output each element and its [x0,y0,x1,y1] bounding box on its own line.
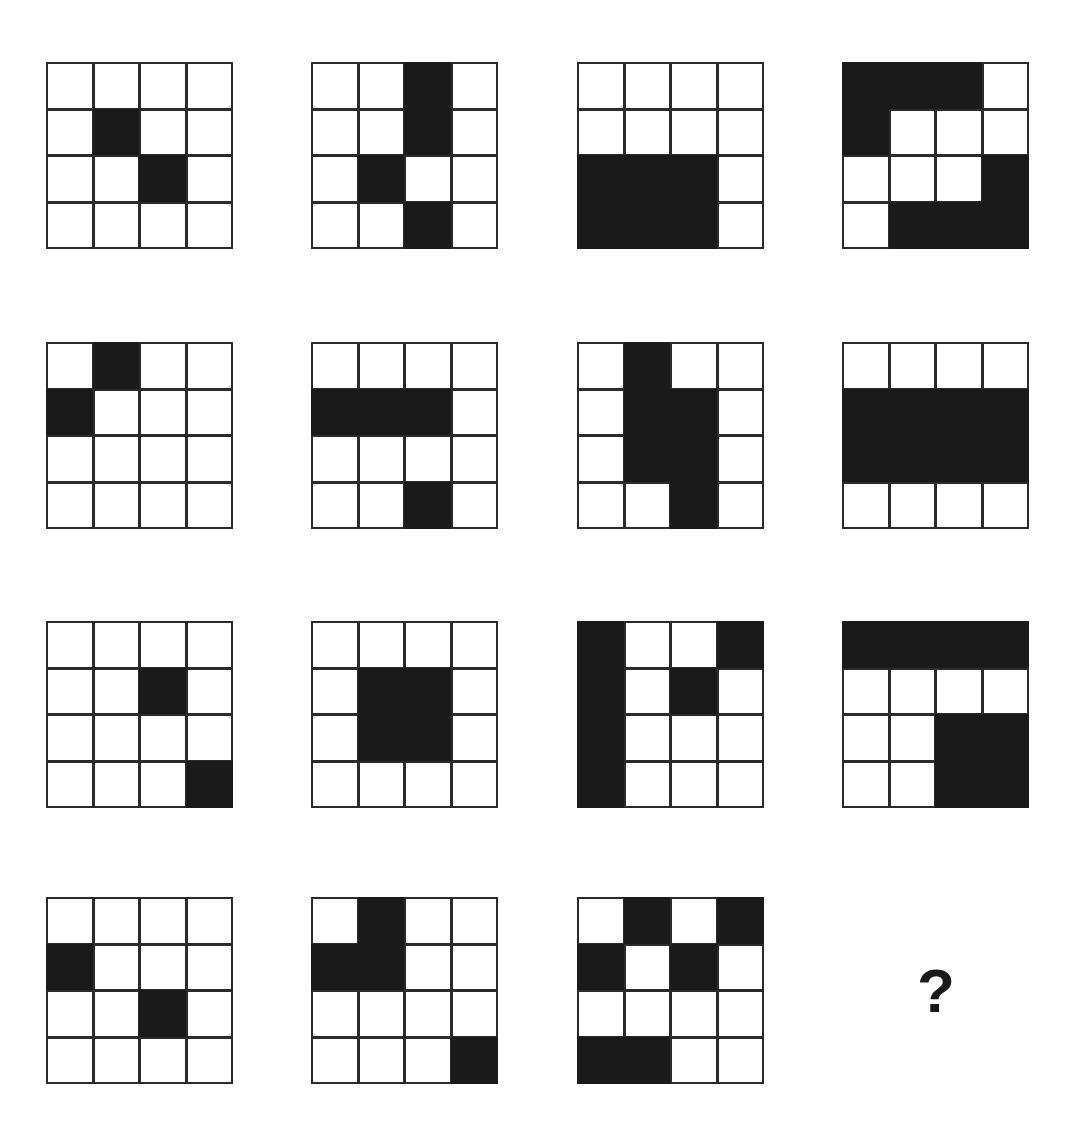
empty-cell [717,668,765,716]
empty-cell [186,342,234,390]
filled-cell [358,944,406,992]
empty-cell [670,761,718,809]
empty-cell [186,109,234,157]
empty-cell [982,62,1030,110]
empty-cell [311,1037,359,1085]
empty-cell [358,1037,406,1085]
empty-cell [670,990,718,1038]
empty-cell [93,62,141,110]
empty-cell [311,621,359,669]
empty-cell [717,761,765,809]
pattern-figure-1 [47,63,233,249]
empty-cell [139,714,187,762]
empty-cell [404,342,452,390]
pattern-figure-9 [47,622,233,808]
empty-cell [889,342,937,390]
empty-cell [717,109,765,157]
empty-cell [139,761,187,809]
empty-cell [93,897,141,945]
empty-cell [358,342,406,390]
answer-slot[interactable]: ? [843,898,1029,1084]
empty-cell [451,897,499,945]
empty-cell [311,155,359,203]
empty-cell [982,668,1030,716]
filled-cell [982,389,1030,437]
filled-cell [842,109,890,157]
empty-cell [451,714,499,762]
filled-cell [404,109,452,157]
filled-cell [842,435,890,483]
empty-cell [93,714,141,762]
filled-cell [186,761,234,809]
filled-cell [982,202,1030,250]
empty-cell [842,202,890,250]
filled-cell [577,668,625,716]
empty-cell [46,714,94,762]
empty-cell [46,482,94,530]
empty-cell [186,990,234,1038]
empty-cell [889,761,937,809]
empty-cell [451,668,499,716]
empty-cell [139,202,187,250]
empty-cell [624,990,672,1038]
empty-cell [624,109,672,157]
empty-cell [186,668,234,716]
empty-cell [577,990,625,1038]
empty-cell [670,621,718,669]
filled-cell [982,155,1030,203]
filled-cell [670,435,718,483]
filled-cell [624,389,672,437]
empty-cell [889,482,937,530]
empty-cell [577,897,625,945]
empty-cell [358,62,406,110]
filled-cell [451,1037,499,1085]
empty-cell [186,897,234,945]
filled-cell [404,202,452,250]
empty-cell [93,621,141,669]
empty-cell [670,897,718,945]
filled-cell [577,714,625,762]
empty-cell [624,761,672,809]
filled-cell [358,897,406,945]
empty-cell [311,482,359,530]
empty-cell [93,1037,141,1085]
empty-cell [624,621,672,669]
empty-cell [186,1037,234,1085]
empty-cell [404,897,452,945]
filled-cell [93,342,141,390]
empty-cell [186,944,234,992]
filled-cell [717,897,765,945]
filled-cell [577,621,625,669]
empty-cell [186,202,234,250]
filled-cell [577,1037,625,1085]
empty-cell [186,62,234,110]
empty-cell [93,202,141,250]
pattern-figure-5 [47,343,233,529]
filled-cell [982,714,1030,762]
empty-cell [577,435,625,483]
empty-cell [311,62,359,110]
empty-cell [451,435,499,483]
filled-cell [889,621,937,669]
filled-cell [311,944,359,992]
filled-cell [624,342,672,390]
filled-cell [139,990,187,1038]
empty-cell [451,389,499,437]
filled-cell [577,761,625,809]
empty-cell [358,761,406,809]
pattern-figure-3 [578,63,764,249]
empty-cell [577,342,625,390]
filled-cell [624,202,672,250]
filled-cell [889,435,937,483]
empty-cell [982,482,1030,530]
missing-figure-placeholder: ? [917,960,955,1022]
empty-cell [186,155,234,203]
empty-cell [451,109,499,157]
empty-cell [670,1037,718,1085]
filled-cell [842,62,890,110]
empty-cell [186,482,234,530]
empty-cell [358,109,406,157]
empty-cell [982,342,1030,390]
empty-cell [624,62,672,110]
filled-cell [889,62,937,110]
